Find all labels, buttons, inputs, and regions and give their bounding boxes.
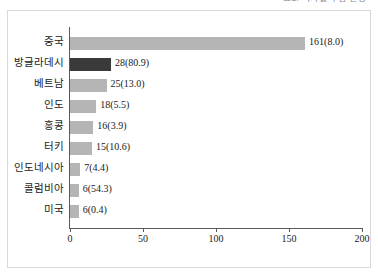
category-label: 인도네시아 [14,161,64,175]
category-label: 터키 [44,140,64,154]
bar-row: 중국161(8.0) [70,33,362,54]
bar-row: 베트남25(13.0) [70,75,362,96]
bar-value-label: 18(5.5) [100,98,129,111]
bar [70,163,80,176]
bar-row: 터키15(10.6) [70,138,362,159]
bar-row: 콜럼비아6(54.3) [70,180,362,201]
bar-row: 미국6(0.4) [70,201,362,222]
x-axis-tick [362,228,363,232]
bar-value-label: 16(3.9) [97,119,126,132]
bar-value-label: 6(54.3) [83,182,112,195]
x-axis-tick [216,228,217,232]
clipped-header-strip: 표2. 국가별 수입 현황 [0,0,378,9]
category-label: 콜럼비아 [24,182,64,196]
x-axis-tick-label: 150 [282,233,297,245]
category-label: 방글라데시 [14,56,64,70]
bar [70,205,79,218]
x-axis-tick-label: 100 [209,233,224,245]
bar [70,58,111,71]
x-axis-tick [143,228,144,232]
x-axis-tick-label: 50 [138,233,148,245]
bar [70,121,93,134]
x-axis-tick [289,228,290,232]
bar [70,79,107,92]
x-axis-tick [70,228,71,232]
bar-row: 방글라데시28(80.9) [70,54,362,75]
bar-value-label: 6(0.4) [83,203,107,216]
bar-value-label: 7(4.4) [84,161,108,174]
category-label: 홍콩 [44,119,64,133]
chart-frame: 중국161(8.0)방글라데시28(80.9)베트남25(13.0)인도18(5… [7,10,371,268]
bar-row: 인도18(5.5) [70,96,362,117]
bar [70,100,96,113]
category-label: 중국 [44,35,64,49]
plot-area: 중국161(8.0)방글라데시28(80.9)베트남25(13.0)인도18(5… [70,27,362,228]
bar-row: 홍콩16(3.9) [70,117,362,138]
x-axis-tick-label: 200 [355,233,370,245]
category-label: 인도 [44,98,64,112]
x-axis-tick-label: 0 [68,233,73,245]
bar [70,37,305,50]
bar-value-label: 25(13.0) [111,77,145,90]
bar-value-label: 15(10.6) [96,140,130,153]
bar-value-label: 161(8.0) [309,35,343,48]
clipped-header-text: 표2. 국가별 수입 현황 [283,0,366,4]
bar [70,142,92,155]
category-label: 베트남 [34,77,64,91]
category-label: 미국 [44,203,64,217]
bar-value-label: 28(80.9) [115,56,149,69]
bar-row: 인도네시아7(4.4) [70,159,362,180]
bar [70,184,79,197]
